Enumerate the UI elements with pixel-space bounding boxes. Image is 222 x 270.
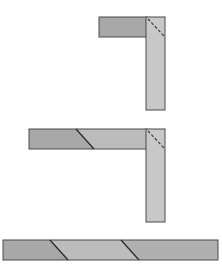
stage-1-vertical-strip bbox=[146, 17, 165, 110]
stage-1-horizontal-strip bbox=[99, 17, 147, 37]
stage-1-corner bbox=[99, 17, 165, 110]
folding-diagram bbox=[0, 0, 222, 270]
stage-3-strip bbox=[3, 240, 218, 260]
stage-2-corner bbox=[29, 129, 165, 222]
stage-2-vertical-strip bbox=[146, 129, 165, 222]
